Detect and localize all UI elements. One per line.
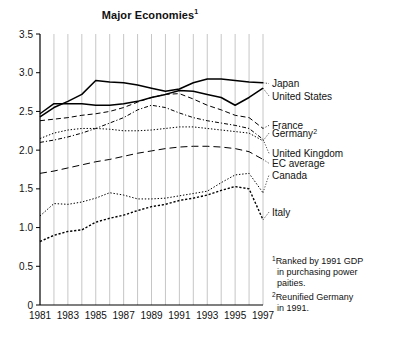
series-leader-line — [263, 175, 269, 193]
series-leader-line — [263, 159, 269, 163]
series-label-japan: Japan — [272, 78, 299, 89]
series-leader-line — [263, 133, 269, 141]
vertical-gridlines — [40, 34, 263, 305]
series-leader-line — [263, 83, 269, 84]
y-axis-tick-label: 3.5 — [19, 29, 33, 40]
x-axis-tick-label: 1995 — [224, 310, 247, 321]
footnote-line: in 1991. — [277, 303, 309, 313]
y-axis-tick-label: 0.5 — [19, 261, 33, 272]
x-axis-tick-label: 1989 — [140, 310, 163, 321]
y-axis-ticks: 00.51.01.52.02.53.03.5 — [19, 29, 40, 311]
x-axis-tick-label: 1985 — [85, 310, 108, 321]
x-axis-tick-label: 1983 — [57, 310, 80, 321]
series-label-ec-average: EC average — [272, 158, 325, 169]
series-label-canada: Canada — [272, 170, 307, 181]
y-axis-tick-label: 2.0 — [19, 145, 33, 156]
y-axis-tick-label: 1.0 — [19, 222, 33, 233]
y-axis-tick-label: 2.5 — [19, 106, 33, 117]
y-axis-tick-label: 0 — [27, 300, 33, 311]
series-leader-lines — [263, 83, 269, 220]
chart-figure: Major Economies1 00.51.01.52.02.53.03.5 … — [0, 0, 407, 343]
series-label-italy: Italy — [272, 207, 290, 218]
x-axis-ticks: 198119831985198719891991199319951997 — [29, 310, 275, 321]
footnote-line: 2Reunified Germany — [272, 291, 354, 303]
footnote-line: in purchasing power — [277, 267, 358, 277]
series-labels-group: JapanUnited StatesFranceGermany2United K… — [272, 78, 343, 218]
line-chart: 00.51.01.52.02.53.03.5 19811983198519871… — [0, 0, 407, 343]
series-leader-line — [263, 212, 269, 220]
footnotes-group: 1Ranked by 1991 GDPin purchasing powerpa… — [272, 255, 363, 314]
y-axis-tick-label: 3.0 — [19, 67, 33, 78]
x-axis-tick-label: 1993 — [196, 310, 219, 321]
series-leader-line — [263, 139, 269, 153]
series-label-united-states: United States — [272, 91, 332, 102]
x-axis-tick-label: 1991 — [168, 310, 191, 321]
footnote-line: paities. — [277, 278, 306, 288]
y-axis-tick-label: 1.5 — [19, 183, 33, 194]
x-axis-tick-label: 1997 — [252, 310, 275, 321]
series-leader-line — [263, 88, 269, 96]
x-axis-tick-label: 1981 — [29, 310, 52, 321]
series-leader-line — [263, 125, 269, 128]
footnote-line: 1Ranked by 1991 GDP — [272, 255, 363, 267]
x-axis-tick-label: 1987 — [113, 310, 136, 321]
series-label-germany: Germany2 — [272, 127, 317, 139]
